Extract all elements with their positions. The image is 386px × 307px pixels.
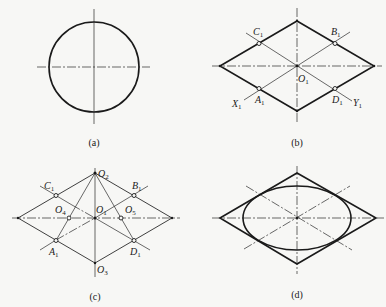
diagonal-o1-d1	[95, 218, 150, 250]
vertex-top	[296, 20, 298, 22]
point-d1	[132, 239, 136, 243]
vertex-right	[373, 65, 375, 67]
label-o3: O3	[97, 264, 108, 277]
point-o4	[67, 216, 71, 220]
vertex-bottom	[296, 110, 298, 112]
panel-d: (d)	[212, 166, 384, 301]
vertex-right	[171, 217, 173, 219]
center-point	[296, 217, 298, 219]
label-o1: O1	[96, 204, 107, 217]
point-o3	[94, 262, 96, 264]
point-b1	[333, 42, 337, 46]
label-b1: B1	[331, 26, 341, 39]
point-o2	[94, 172, 97, 175]
label-b1: B1	[132, 180, 142, 193]
vertex-left	[219, 65, 221, 67]
point-a1	[54, 239, 58, 243]
point-o1	[296, 65, 299, 68]
point-c1	[54, 194, 58, 198]
label-a1: A1	[254, 94, 265, 107]
label-x1: X1	[231, 98, 242, 111]
label-o5: O5	[125, 204, 136, 217]
caption-c: (c)	[89, 291, 100, 303]
caption-d: (d)	[291, 289, 303, 301]
point-b1	[132, 194, 136, 198]
caption-b: (b)	[291, 137, 303, 149]
point-o1	[94, 217, 97, 220]
panel-a: (a)	[37, 9, 150, 149]
point-a1	[257, 87, 261, 91]
label-o1: O1	[298, 73, 309, 86]
panel-c: O2 C1 B1 O1 O4 O5 A1 D1 O3 (c)	[12, 168, 180, 303]
label-o2: O2	[98, 168, 109, 181]
label-c1: C1	[44, 180, 55, 193]
isometric-ellipse-construction-figure: (a) C1 B1 O1 A1 D1 X1 Y1 (b)	[0, 0, 386, 307]
label-d1: D1	[331, 94, 343, 107]
label-d1: D1	[129, 246, 141, 259]
point-c1	[257, 42, 261, 46]
label-c1: C1	[253, 26, 264, 39]
diagonal-a1-o1	[56, 218, 95, 240]
label-a1: A1	[48, 246, 59, 259]
panel-b: C1 B1 O1 A1 D1 X1 Y1 (b)	[212, 8, 382, 149]
point-o5	[119, 216, 123, 220]
label-o4: O4	[55, 204, 66, 217]
point-d1	[333, 87, 337, 91]
caption-a: (a)	[88, 137, 99, 149]
vertex-left	[17, 217, 19, 219]
label-y1: Y1	[353, 97, 363, 110]
